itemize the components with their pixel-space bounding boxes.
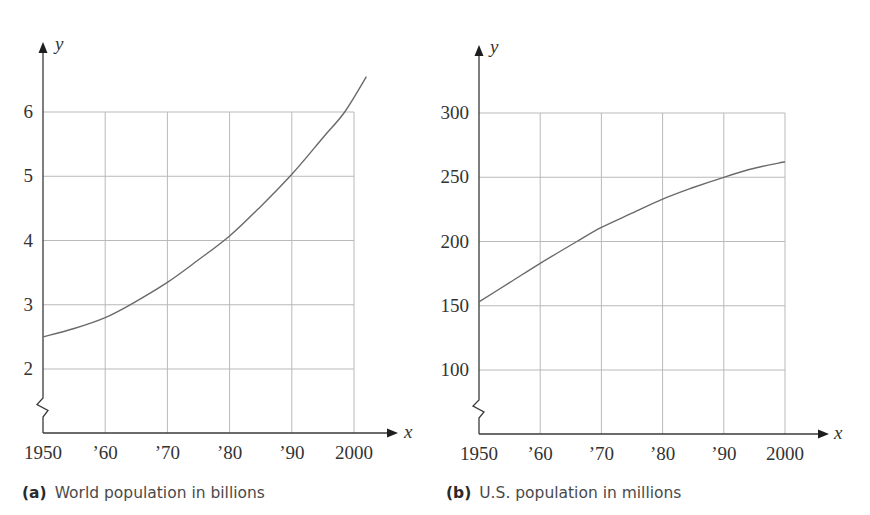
caption-a: (a)World population in billions xyxy=(22,484,265,502)
tick-labels: yx1001502002503001950’60’70’80’902000 xyxy=(441,36,844,464)
x-tick-label: 2000 xyxy=(766,443,804,464)
x-tick-label: 2000 xyxy=(335,442,373,463)
caption-b: (b)U.S. population in millions xyxy=(446,484,681,502)
y-axis xyxy=(37,50,48,433)
y-tick-label: 150 xyxy=(441,295,470,316)
y-tick-label: 100 xyxy=(441,359,470,380)
caption-tag: (b) xyxy=(446,484,471,502)
y-tick-label: 200 xyxy=(441,231,470,252)
y-tick-label: 6 xyxy=(24,101,34,122)
axes xyxy=(37,42,398,438)
x-tick-label: ’90 xyxy=(279,442,304,463)
x-tick-label: ’80 xyxy=(217,442,242,463)
y-axis-label: y xyxy=(488,36,499,57)
chart-us-population: yx1001502002503001950’60’70’80’902000 xyxy=(441,36,844,464)
x-axis-label: x xyxy=(403,421,413,442)
x-axis-label: x xyxy=(833,422,843,443)
x-axis-arrow-icon xyxy=(818,430,829,439)
x-tick-label: 1950 xyxy=(460,443,498,464)
x-tick-label: ’80 xyxy=(650,443,675,464)
chart-world-population: yx234561950’60’70’80’902000 xyxy=(24,33,414,463)
x-axis-arrow-icon xyxy=(387,429,398,438)
y-tick-label: 250 xyxy=(441,166,470,187)
x-tick-label: ’90 xyxy=(711,443,736,464)
data-curve xyxy=(479,162,785,302)
x-tick-label: 1950 xyxy=(24,442,62,463)
caption-text: World population in billions xyxy=(55,484,265,502)
y-tick-label: 5 xyxy=(24,165,34,186)
y-tick-label: 3 xyxy=(24,294,34,315)
x-tick-label: ’60 xyxy=(528,443,553,464)
y-axis-arrow-icon xyxy=(39,42,48,53)
data-curve xyxy=(43,77,366,337)
x-tick-label: ’70 xyxy=(155,442,180,463)
y-axis-label: y xyxy=(53,33,64,54)
y-tick-label: 2 xyxy=(24,358,34,379)
grid-lines xyxy=(43,112,354,433)
caption-tag: (a) xyxy=(22,484,47,502)
x-tick-label: ’60 xyxy=(93,442,118,463)
caption-text: U.S. population in millions xyxy=(479,484,681,502)
x-tick-label: ’70 xyxy=(589,443,614,464)
y-axis-arrow-icon xyxy=(475,45,484,56)
y-tick-label: 300 xyxy=(441,102,470,123)
y-axis xyxy=(473,53,484,434)
y-tick-label: 4 xyxy=(24,230,34,251)
